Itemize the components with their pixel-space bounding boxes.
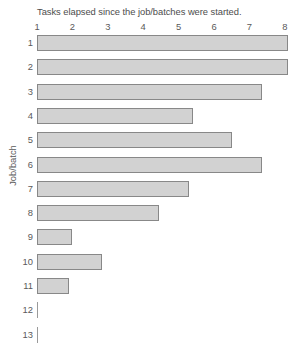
bar-row: 1 [0,35,303,59]
bar-job-12 [37,302,38,318]
x-tick-label-6: 6 [211,21,216,33]
bar-job-5 [37,132,232,148]
x-tick-label-2: 2 [70,21,75,33]
y-tick-label-4: 4 [0,108,33,124]
bar-row: 4 [0,108,303,132]
bar-row: 8 [0,205,303,229]
bar-row: 5 [0,132,303,156]
x-tick-label-5: 5 [176,21,181,33]
x-tick-label-4: 4 [141,21,146,33]
bar-row: 2 [0,59,303,83]
bar-job-13 [37,327,38,343]
y-tick-label-13: 13 [0,327,33,343]
bar-row: 9 [0,229,303,253]
chart-title: Tasks elapsed since the job/batches were… [37,6,299,17]
x-tick-label-1: 1 [34,21,39,33]
y-tick-label-11: 11 [0,278,33,294]
bar-job-7 [37,181,189,197]
y-tick-label-3: 3 [0,84,33,100]
bar-job-2 [37,59,288,75]
y-tick-label-9: 9 [0,229,33,245]
y-tick-label-7: 7 [0,181,33,197]
bar-row: 7 [0,181,303,205]
x-tick-label-7: 7 [247,21,252,33]
bar-job-9 [37,229,72,245]
bar-job-8 [37,205,159,221]
bar-row: 12 [0,302,303,326]
bar-row: 11 [0,278,303,302]
y-tick-label-6: 6 [0,157,33,173]
bar-row: 13 [0,327,303,351]
y-tick-label-2: 2 [0,59,33,75]
y-tick-label-10: 10 [0,254,33,270]
bar-job-11 [37,278,69,294]
x-axis-tick-labels: 12345678 [0,21,303,35]
bar-row: 3 [0,84,303,108]
bar-job-4 [37,108,193,124]
x-tick-label-3: 3 [105,21,110,33]
bar-chart: Tasks elapsed since the job/batches were… [0,0,303,361]
x-tick-label-8: 8 [282,21,287,33]
bar-row: 10 [0,254,303,278]
y-tick-label-5: 5 [0,132,33,148]
y-tick-label-1: 1 [0,35,33,51]
bar-job-3 [37,84,262,100]
bar-job-1 [37,35,288,51]
bar-job-6 [37,157,262,173]
y-tick-label-8: 8 [0,205,33,221]
y-tick-label-12: 12 [0,302,33,318]
plot-area: 12345678910111213 [0,35,303,361]
bar-job-10 [37,254,102,270]
bar-row: 6 [0,157,303,181]
